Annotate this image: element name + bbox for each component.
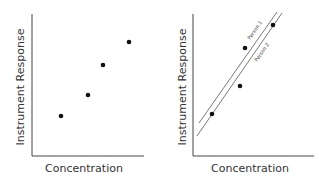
data-point <box>86 93 91 98</box>
data-point <box>210 112 215 117</box>
left-x-label: Concentration <box>45 162 123 175</box>
person-1-label: Person 1 <box>246 19 263 40</box>
left-chart: Concentration Instrument Response <box>14 14 144 175</box>
data-point <box>59 114 64 119</box>
data-point <box>243 46 248 51</box>
left-axes <box>32 14 144 156</box>
data-point <box>271 23 276 28</box>
person-1-line <box>199 12 277 123</box>
data-point <box>127 40 132 45</box>
right-chart: Person 1 Person 2 Concentration Instrume… <box>176 12 314 175</box>
data-point <box>101 63 106 68</box>
right-y-label: Instrument Response <box>176 28 189 145</box>
figure: Concentration Instrument Response Person… <box>0 0 319 182</box>
data-point <box>238 84 243 89</box>
left-y-label: Instrument Response <box>14 28 27 145</box>
right-x-label: Concentration <box>211 162 289 175</box>
person-2-line <box>197 13 282 136</box>
